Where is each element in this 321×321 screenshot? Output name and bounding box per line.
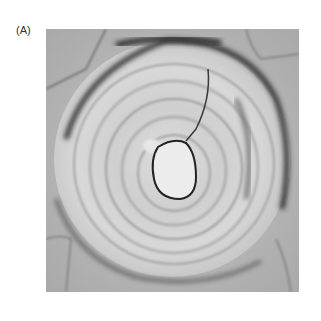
panel-label: (A) [16,24,31,36]
micrograph-image [46,29,299,292]
sclereid-cell-illustration [46,29,299,292]
